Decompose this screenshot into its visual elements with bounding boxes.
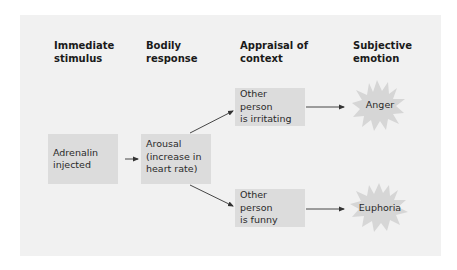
connectors-layer [0, 0, 457, 270]
arrow-response-to-funny [190, 185, 233, 206]
arrow-response-to-irritating [190, 111, 233, 133]
emotion-euphoria-label: Euphoria [352, 202, 408, 213]
emotion-anger-label: Anger [358, 99, 402, 110]
